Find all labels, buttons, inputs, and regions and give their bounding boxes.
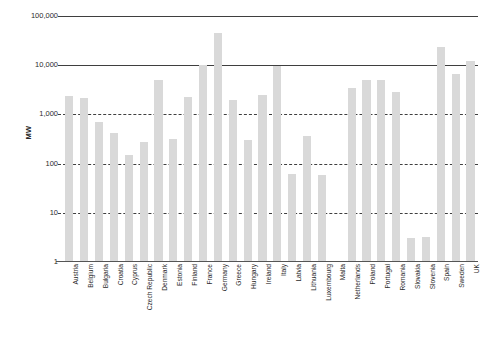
x-axis-tick-label: Hungary [250,264,257,289]
y-axis-tick-label: 1 [12,258,58,266]
x-axis-tick-label: Austria [72,264,79,285]
x-axis-tick-labels: AustriaBelgiumBulgariaCroatiaCyprusCzech… [62,264,478,336]
bar [229,100,237,262]
bar [377,80,385,262]
x-axis-tick-label: Estonia [176,264,183,286]
y-axis-tick: 100 [12,160,58,168]
x-axis-tick-label: Czech Republic [146,264,153,310]
bar [110,133,118,262]
wind-capacity-bar-chart: MW 100,00010,0001,000100101 AustriaBelgi… [0,0,489,337]
x-axis-tick-label: Cyprus [131,264,138,285]
plot-area [62,16,478,262]
bar [125,155,133,262]
bar [65,96,73,262]
y-axis-tick: 1,000 [12,110,58,118]
x-axis-tick-label: Greece [235,264,242,286]
bar [288,174,296,262]
bar [362,80,370,262]
x-axis-tick-label: Bulgaria [102,264,109,288]
x-axis-tick-label: Slovakia [414,264,421,289]
y-axis-tick: 100,000 [12,12,58,20]
bar [199,65,207,262]
bar [214,33,222,262]
x-axis-tick-label: Malta [339,264,346,280]
bar [169,139,177,262]
x-axis-tick-label: Poland [369,264,376,285]
x-axis-tick-label: Denmark [161,264,168,291]
bar [318,175,326,262]
x-axis-tick-label: Lithuania [310,264,317,291]
bar [407,238,415,262]
x-axis-tick-label: Luxembourg [325,264,332,301]
x-axis-tick-label: Romania [399,264,406,290]
x-axis-tick-label: Portugal [384,264,391,289]
bar [95,122,103,262]
x-axis-tick-label: Spain [443,264,450,281]
y-axis-title: MW [24,113,33,153]
bar [258,95,266,262]
x-axis-tick-label: UK [473,264,480,273]
x-axis-tick-label: Netherlands [354,264,361,300]
y-axis-tick-label: 1,000 [12,110,58,118]
x-axis-tick-label: Italy [280,264,287,276]
bar [422,237,430,263]
x-axis-tick-label: Ireland [265,264,272,284]
bar-series [62,16,478,262]
bar [80,98,88,262]
y-axis-tick: 1 [12,258,58,266]
y-axis-tick-label: 100 [12,160,58,168]
x-axis-line [56,261,478,262]
x-axis-tick-label: Latvia [295,264,302,282]
x-axis-tick-label: Croatia [117,264,124,285]
bar [437,47,445,262]
x-axis-tick-label: Belgium [87,264,94,288]
bar [244,140,252,262]
bar [348,88,356,262]
y-axis-tick-label: 10 [12,209,58,217]
x-axis-tick-label: Sweden [458,264,465,288]
bar [140,142,148,262]
y-axis-tick: 10,000 [12,61,58,69]
bar [273,66,281,262]
y-axis-tick-label: 10,000 [12,61,58,69]
y-axis-tick: 10 [12,209,58,217]
bar [184,97,192,262]
x-axis-tick-label: Slovenia [429,264,436,289]
bar [154,80,162,262]
x-axis-tick-label: Finland [191,264,198,286]
bar [452,74,460,262]
bar [466,61,474,262]
bar [392,92,400,262]
x-axis-tick-label: France [206,264,213,285]
y-axis-tick-label: 100,000 [12,12,58,20]
bar [303,136,311,262]
x-axis-tick-label: Germany [221,264,228,291]
